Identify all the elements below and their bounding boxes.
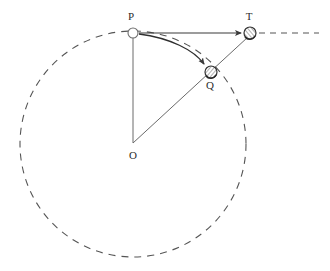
geometry-diagram: P T Q O (0, 0, 330, 271)
diagram-canvas: P T Q O (0, 0, 330, 271)
point-marker-p (128, 28, 138, 38)
label-point-q: Q (206, 79, 214, 91)
label-point-t: T (246, 10, 253, 22)
arrow-p-to-q-curved (139, 34, 204, 64)
segment-o-to-t (133, 37, 248, 143)
label-point-p: P (128, 10, 134, 22)
label-point-o: O (129, 149, 137, 161)
